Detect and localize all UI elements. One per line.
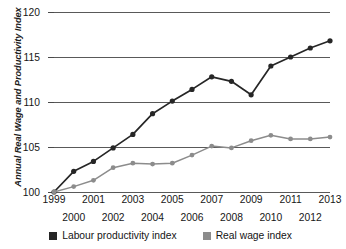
plot-area: 120115110105100 — [54, 12, 330, 192]
chart-legend: Labour productivity index Real wage inde… — [0, 230, 341, 241]
data-point[interactable] — [111, 165, 116, 170]
data-point[interactable] — [249, 138, 254, 143]
data-point[interactable] — [150, 162, 155, 167]
legend-swatch-icon — [203, 232, 211, 240]
data-point[interactable] — [130, 132, 135, 137]
data-point[interactable] — [327, 38, 332, 43]
x-tick-label: 2007 — [190, 194, 234, 205]
data-point[interactable] — [91, 159, 96, 164]
data-point[interactable] — [130, 161, 135, 166]
data-point[interactable] — [209, 144, 214, 149]
data-point[interactable] — [209, 74, 214, 79]
data-point[interactable] — [249, 92, 254, 97]
legend-swatch-icon — [49, 232, 57, 240]
data-point[interactable] — [71, 169, 76, 174]
data-point[interactable] — [308, 45, 313, 50]
data-point[interactable] — [190, 153, 195, 158]
x-tick-label: 2010 — [249, 212, 293, 223]
x-tick-label: 2011 — [269, 194, 313, 205]
legend-item-labour-productivity-index[interactable]: Labour productivity index — [49, 230, 176, 241]
series-layer — [54, 12, 330, 192]
data-point[interactable] — [170, 99, 175, 104]
x-tick-label: 2002 — [91, 212, 135, 223]
legend-item-real-wage-index[interactable]: Real wage index — [203, 230, 292, 241]
data-point[interactable] — [170, 161, 175, 166]
x-tick-label: 2004 — [131, 212, 175, 223]
y-tick-label: 105 — [0, 142, 40, 153]
legend-label: Real wage index — [216, 230, 292, 241]
x-tick-label: 2012 — [288, 212, 332, 223]
x-tick-label: 2013 — [308, 194, 346, 205]
data-point[interactable] — [229, 146, 234, 151]
data-point[interactable] — [189, 87, 194, 92]
legend-label: Labour productivity index — [62, 230, 176, 241]
data-point[interactable] — [308, 137, 313, 142]
chart-title — [0, 0, 341, 1]
series-line — [54, 135, 330, 192]
series-line — [54, 41, 330, 192]
y-tick-label: 115 — [0, 52, 40, 63]
data-point[interactable] — [288, 137, 293, 142]
x-axis-line — [54, 192, 330, 193]
x-tick-label: 2003 — [111, 194, 155, 205]
data-point[interactable] — [268, 133, 273, 138]
data-point[interactable] — [288, 54, 293, 59]
x-tick-label: 2009 — [229, 194, 273, 205]
x-tick-label: 2005 — [150, 194, 194, 205]
data-point[interactable] — [111, 145, 116, 150]
data-point[interactable] — [71, 184, 76, 189]
y-tick-label: 120 — [0, 7, 40, 18]
x-tick-label: 2008 — [209, 212, 253, 223]
data-point[interactable] — [229, 79, 234, 84]
x-tick-label: 1999 — [32, 194, 76, 205]
data-point[interactable] — [268, 63, 273, 68]
x-tick-label: 2006 — [170, 212, 214, 223]
y-tick-label: 110 — [0, 97, 40, 108]
x-tick-label: 2000 — [52, 212, 96, 223]
x-tick-label: 2001 — [71, 194, 115, 205]
data-point[interactable] — [328, 135, 333, 140]
data-point[interactable] — [150, 111, 155, 116]
data-point[interactable] — [91, 178, 96, 183]
